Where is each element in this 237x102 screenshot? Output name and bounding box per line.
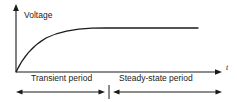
voltage-time-figure: Voltage t Transient period Steady-state … xyxy=(0,0,237,102)
x-axis-arrowhead-icon xyxy=(215,69,222,75)
y-axis xyxy=(13,4,19,72)
y-axis-label: Voltage xyxy=(24,11,52,20)
transient-period-arrow xyxy=(16,89,105,94)
voltage-response-path xyxy=(16,28,198,72)
transient-arrow-right-head-icon xyxy=(99,89,106,94)
steady-state-period-arrow xyxy=(113,89,222,94)
x-axis-label: t xyxy=(226,64,228,72)
steady-state-period-label: Steady-state period xyxy=(119,74,193,83)
transient-period-label: Transient period xyxy=(31,74,92,83)
steady-state-arrow-right-head-icon xyxy=(216,89,223,94)
y-axis-arrowhead-icon xyxy=(13,4,19,11)
steady-state-arrow-left-head-icon xyxy=(113,89,120,94)
voltage-curve xyxy=(16,28,198,72)
transient-arrow-left-head-icon xyxy=(16,89,23,94)
